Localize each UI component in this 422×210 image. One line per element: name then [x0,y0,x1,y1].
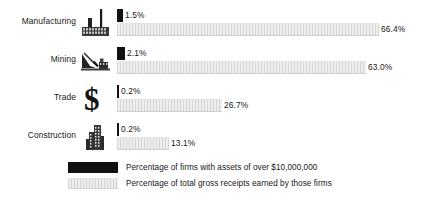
dark-bar-value: 1.5% [123,9,145,22]
light-bar-value: 63.0% [366,61,392,74]
chart-row-manufacturing: Manufacturing [0,6,422,44]
light-bar-value: 66.4% [379,23,405,36]
factory-icon [80,6,114,40]
light-bar [117,137,169,150]
chart-row-trade: Trade $ 0.2% 26.7% [0,82,422,120]
dark-bar [117,47,125,60]
row-bars: 2.1% 63.0% [117,46,417,80]
dark-bar-line: 0.2% [117,123,141,136]
row-label: Manufacturing [0,16,76,26]
light-bar [117,61,366,74]
row-label: Construction [0,130,76,140]
light-bar-line: 13.1% [117,137,195,150]
row-label: Trade [0,92,76,102]
legend-swatch-dark [68,162,118,173]
dollar-sign-icon: $ [80,82,114,116]
dark-bar-value: 2.1% [125,47,147,60]
dark-bar-line: 2.1% [117,47,147,60]
dark-bar-line: 1.5% [117,9,145,22]
legend-label: Percentage of total gross receipts earne… [126,178,332,189]
chart-row-construction: Construction [0,120,422,158]
row-bars: 0.2% 26.7% [117,84,417,118]
light-bar-value: 13.1% [169,137,195,150]
dark-bar-value: 0.2% [119,123,141,136]
light-bar [117,99,222,112]
mining-icon [80,44,114,78]
bar-chart: Manufacturing [0,0,422,210]
light-bar-line: 66.4% [117,23,405,36]
dark-bar-value: 0.2% [119,85,141,98]
building-icon [80,120,114,154]
dark-bar-line: 0.2% [117,85,141,98]
light-bar-line: 26.7% [117,99,248,112]
chart-row-mining: Mining 2.1% 63.0% [0,44,422,82]
light-bar-line: 63.0% [117,61,392,74]
row-bars: 0.2% 13.1% [117,122,417,156]
legend-swatch-light [68,178,118,189]
cut-off-caption-text [8,203,418,210]
row-bars: 1.5% 66.4% [117,8,417,42]
legend-label: Percentage of firms with assets of over … [126,162,317,173]
chart-legend: Percentage of firms with assets of over … [0,162,422,196]
row-label: Mining [0,54,76,64]
light-bar [117,23,379,36]
light-bar-value: 26.7% [222,99,248,112]
svg-text:$: $ [84,82,100,116]
